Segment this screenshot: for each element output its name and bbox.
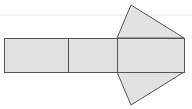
triangle-top [117,5,184,38]
prism-net-diagram [0,0,192,109]
triangle-bottom [117,72,184,105]
rect-2 [69,39,118,73]
rect-1 [5,39,69,73]
rect-3 [118,39,185,73]
net-shapes [5,5,185,105]
